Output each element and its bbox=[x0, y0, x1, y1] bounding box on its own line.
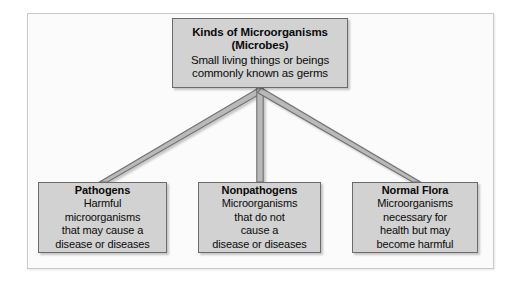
node-nonpathogens-body-line: Microorganisms bbox=[212, 197, 306, 211]
node-normal-flora-body-line: health but may bbox=[377, 224, 454, 238]
node-root-subtitle: (Microbes) bbox=[231, 39, 288, 53]
node-normal-flora-body-line: Microorganisms bbox=[377, 197, 454, 211]
node-nonpathogens[interactable]: Nonpathogens Microorganisms that do not … bbox=[198, 182, 321, 253]
node-normal-flora-title: Normal Flora bbox=[382, 184, 449, 198]
diagram-root: Kinds of Microorganisms (Microbes) Small… bbox=[0, 0, 518, 282]
node-pathogens-body-line: disease or diseases bbox=[55, 238, 149, 252]
node-root-body: Small living things or beings commonly k… bbox=[191, 54, 329, 81]
node-root[interactable]: Kinds of Microorganisms (Microbes) Small… bbox=[172, 18, 348, 88]
node-nonpathogens-body-line: that do not bbox=[212, 211, 306, 225]
node-normal-flora-body: Microorganisms necessary for health but … bbox=[377, 197, 454, 251]
node-normal-flora-body-line: become harmful bbox=[377, 238, 454, 252]
node-normal-flora[interactable]: Normal Flora Microorganisms necessary fo… bbox=[352, 182, 478, 253]
node-pathogens-body-line: that may cause a bbox=[55, 224, 149, 238]
node-nonpathogens-body-line: cause a bbox=[212, 224, 306, 238]
node-root-body-line: commonly known as germs bbox=[191, 67, 329, 81]
node-nonpathogens-body: Microorganisms that do not cause a disea… bbox=[212, 197, 306, 251]
node-root-title: Kinds of Microorganisms bbox=[192, 26, 328, 40]
node-pathogens[interactable]: Pathogens Harmful microorganisms that ma… bbox=[38, 182, 167, 253]
node-nonpathogens-body-line: disease or diseases bbox=[212, 238, 306, 252]
node-pathogens-body-line: Harmful bbox=[55, 197, 149, 211]
node-nonpathogens-title: Nonpathogens bbox=[222, 184, 298, 198]
node-pathogens-title: Pathogens bbox=[75, 184, 130, 198]
node-pathogens-body: Harmful microorganisms that may cause a … bbox=[55, 197, 149, 251]
node-normal-flora-body-line: necessary for bbox=[377, 211, 454, 225]
node-root-body-line: Small living things or beings bbox=[191, 54, 329, 68]
node-pathogens-body-line: microorganisms bbox=[55, 211, 149, 225]
